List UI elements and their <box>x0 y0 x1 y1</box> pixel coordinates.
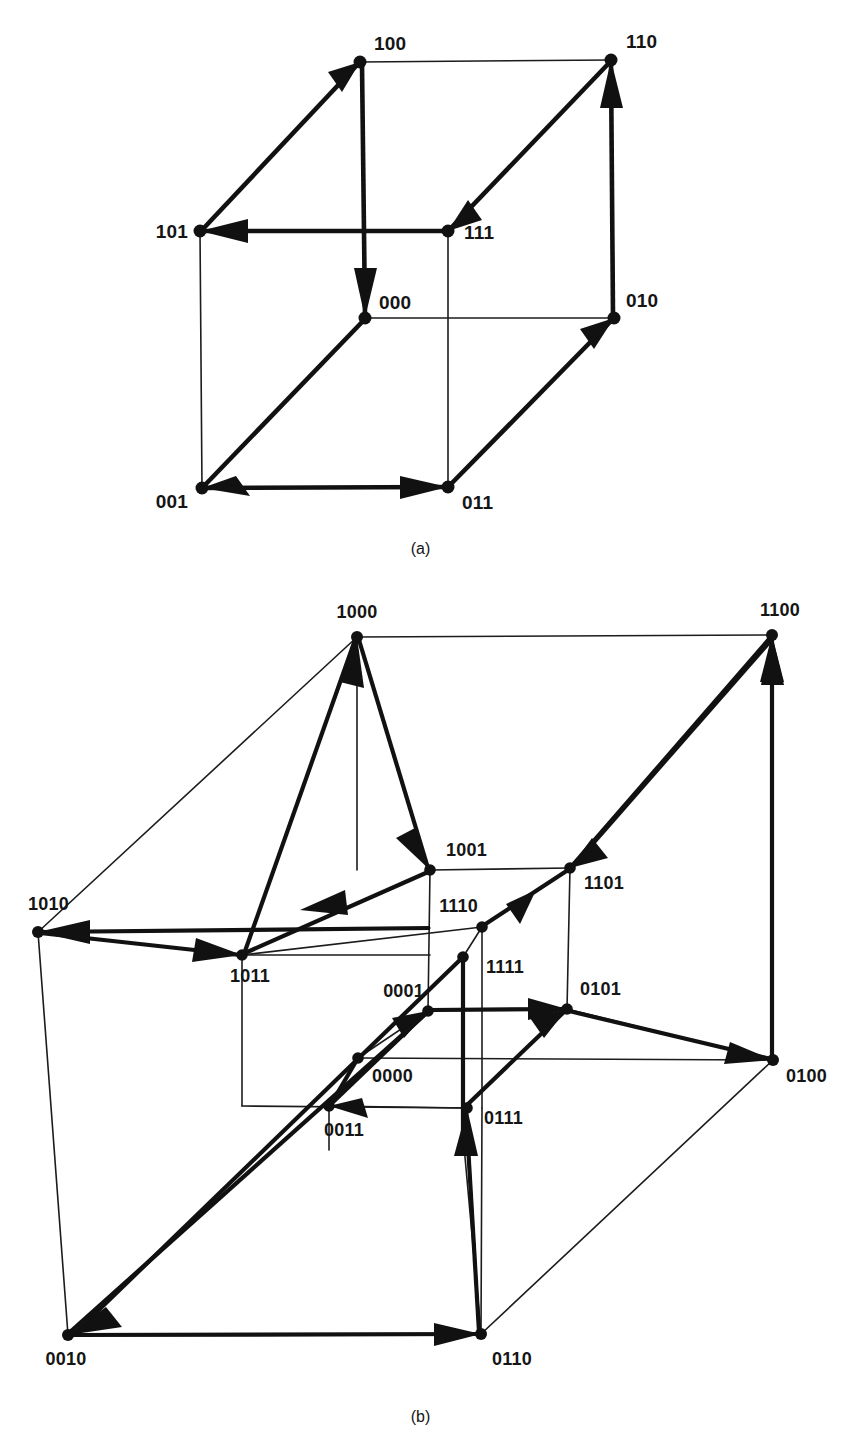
node-label-100: 100 <box>374 33 406 54</box>
node-label-0101: 0101 <box>580 979 621 999</box>
node-label-1010: 1010 <box>28 894 69 914</box>
vertex-1001 <box>424 864 436 876</box>
node-label-0011: 0011 <box>324 1120 364 1140</box>
vertex-1000 <box>351 631 363 643</box>
vertex-100 <box>354 56 367 69</box>
vertex-0100 <box>767 1054 779 1066</box>
arrowhead-1110-to-1101 <box>506 890 536 924</box>
vertex-011 <box>442 481 455 494</box>
edge-0111-0110 <box>481 1108 482 1334</box>
vertex-000 <box>359 312 372 325</box>
node-label-0010: 0010 <box>46 1349 87 1369</box>
edge-1101-0101 <box>567 868 570 1009</box>
diagram-a-directed-edges <box>200 60 623 499</box>
arrowhead-0110-to-0111 <box>454 1108 478 1156</box>
vertex-0110 <box>475 1328 487 1340</box>
arrowhead-1010-to-1011 <box>192 938 242 962</box>
edge-1010-0010 <box>38 932 68 1335</box>
arrowhead-1000-to-1001 <box>396 828 430 870</box>
hypercube-3d-diagram: 100 110 101 111 000 010 001 011 <box>0 0 841 540</box>
edge-110-to-111 <box>450 62 610 229</box>
node-label-011: 011 <box>462 492 493 513</box>
edge-000-to-001 <box>204 320 364 486</box>
node-label-0001: 0001 <box>383 981 424 1001</box>
node-label-0110: 0110 <box>492 1349 532 1369</box>
vertex-010 <box>608 312 621 325</box>
edge-0000-0100 <box>358 1058 773 1060</box>
node-label-101: 101 <box>156 221 189 242</box>
edge-101-001 <box>200 231 202 488</box>
arrowhead-1001-to-1011 <box>300 890 348 915</box>
edge-0110-0100 <box>481 1060 773 1334</box>
edge-1001-1101 <box>430 868 570 870</box>
edge-1000-1100 <box>357 635 772 637</box>
vertex-1010 <box>32 926 44 938</box>
vertex-110 <box>605 54 618 67</box>
node-label-010: 010 <box>626 290 658 311</box>
node-label-1101: 1101 <box>584 873 624 893</box>
vertex-101 <box>194 225 207 238</box>
edge-011-to-010 <box>450 320 612 485</box>
node-label-0100: 0100 <box>786 1066 827 1086</box>
edge-100-110 <box>360 60 611 62</box>
vertex-0111 <box>461 1102 473 1114</box>
node-label-110: 110 <box>626 31 657 52</box>
node-label-001: 001 <box>156 491 189 512</box>
edge-101-to-100 <box>202 64 358 230</box>
node-label-1001: 1001 <box>446 840 487 860</box>
vertex-0001 <box>422 1005 434 1017</box>
figure-page: 100 110 101 111 000 010 001 011 (a) <box>0 0 841 1447</box>
vertex-001 <box>196 482 209 495</box>
edge-1000-to-1001 <box>359 640 428 868</box>
vertex-0101 <box>561 1003 573 1015</box>
caption-b: (b) <box>0 1408 841 1426</box>
vertex-1111 <box>457 951 469 963</box>
arrowhead-001-to-011 <box>400 476 448 499</box>
node-label-1011: 1011 <box>230 966 270 986</box>
node-label-0111: 0111 <box>484 1108 523 1128</box>
vertex-0000 <box>352 1052 364 1064</box>
edge-0010-to-0110 <box>70 1334 479 1335</box>
caption-a: (a) <box>0 540 841 558</box>
vertex-111 <box>442 225 455 238</box>
arrowhead-0010-to-0110 <box>434 1323 481 1346</box>
node-label-1111: 1111 <box>486 957 524 977</box>
arrowhead-100-to-000 <box>354 268 377 318</box>
node-label-111: 111 <box>464 222 494 243</box>
vertex-0010 <box>62 1329 74 1341</box>
node-label-1110: 1110 <box>439 896 478 916</box>
edge-1101-to-1100 <box>574 638 773 865</box>
node-label-000: 000 <box>379 292 411 313</box>
hypercube-4d-diagram: 1000 1100 1001 1101 1010 1011 1110 1111 … <box>0 590 841 1390</box>
node-label-1100: 1100 <box>760 600 800 620</box>
edge-1000-1010 <box>38 637 357 932</box>
vertex-1110 <box>476 921 488 933</box>
vertex-1101 <box>564 862 576 874</box>
diagram-a-node-labels: 100 110 101 111 000 010 001 011 <box>156 31 659 513</box>
edge-to-1010 <box>40 928 430 932</box>
vertex-1100 <box>766 629 778 641</box>
node-label-0000: 0000 <box>372 1066 413 1086</box>
vertex-1011 <box>236 949 248 961</box>
edge-long-diagonal-to-0010-lower <box>72 957 463 1336</box>
vertex-0011 <box>323 1100 335 1112</box>
node-label-1000: 1000 <box>337 602 378 622</box>
